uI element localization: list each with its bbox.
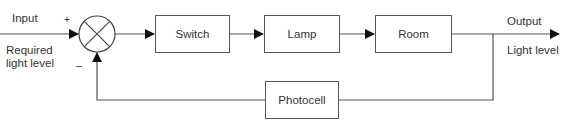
output-sublabel: Light level xyxy=(507,44,559,57)
switch-label: Switch xyxy=(176,28,210,40)
lamp-label: Lamp xyxy=(288,28,317,40)
lamp-block: Lamp xyxy=(264,15,340,53)
input-sublabel-line1: Required xyxy=(6,44,53,57)
switch-block: Switch xyxy=(155,15,230,53)
room-label: Room xyxy=(398,28,429,40)
summing-junction-icon xyxy=(79,16,115,52)
minus-sign: – xyxy=(76,60,82,71)
plus-sign: + xyxy=(64,14,70,25)
room-block: Room xyxy=(375,15,452,53)
input-label: Input xyxy=(12,12,38,25)
photocell-block: Photocell xyxy=(265,81,339,119)
photocell-label: Photocell xyxy=(278,94,325,106)
output-label: Output xyxy=(507,15,542,28)
input-sublabel-line2: light level xyxy=(6,57,54,70)
